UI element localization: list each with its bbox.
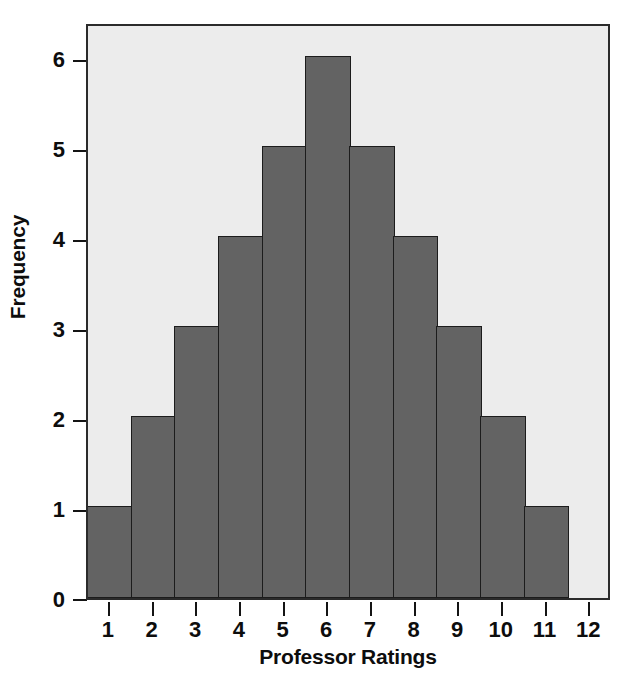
x-tick-mark [588,602,590,616]
y-tick-label: 3 [31,319,65,341]
y-tick-mark [73,510,86,512]
histogram-bar [218,236,264,598]
y-tick-label: 5 [31,139,65,161]
histogram-bar [393,236,439,598]
histogram-bar [87,506,133,598]
histogram-bar [524,506,570,598]
x-tick-mark [108,602,110,616]
x-tick-mark [283,602,285,616]
x-tick-label: 12 [566,618,610,642]
y-tick-mark [73,150,86,152]
histogram-bar [305,56,351,598]
histogram-chart: Frequency Professor Ratings 0123456 1234… [0,0,634,683]
histogram-bar [131,416,177,598]
x-tick-mark [457,602,459,616]
y-tick-label: 4 [31,229,65,251]
y-tick-label: 6 [31,49,65,71]
x-tick-label: 5 [261,618,305,642]
y-tick-label: 0 [31,589,65,611]
y-tick-mark [73,60,86,62]
x-tick-label: 9 [435,618,479,642]
x-tick-label: 2 [130,618,174,642]
x-tick-label: 3 [173,618,217,642]
x-tick-mark [195,602,197,616]
x-tick-mark [545,602,547,616]
x-tick-label: 10 [479,618,523,642]
x-axis-title: Professor Ratings [86,645,610,669]
x-tick-mark [501,602,503,616]
y-tick-label: 2 [31,409,65,431]
x-tick-label: 7 [348,618,392,642]
histogram-bar [436,326,482,598]
y-tick-label: 1 [31,499,65,521]
y-tick-mark [73,420,86,422]
x-tick-mark [370,602,372,616]
y-tick-mark [73,240,86,242]
x-tick-label: 1 [86,618,130,642]
histogram-bar [262,146,308,598]
axis-baseline-stub [73,599,87,601]
plot-area [86,24,610,600]
histogram-bar [480,416,526,598]
x-tick-label: 4 [217,618,261,642]
x-tick-label: 11 [523,618,567,642]
x-tick-label: 6 [304,618,348,642]
y-axis-title: Frequency [6,187,30,347]
x-tick-mark [239,602,241,616]
y-tick-mark [73,330,86,332]
x-tick-mark [326,602,328,616]
histogram-bar [349,146,395,598]
x-tick-mark [414,602,416,616]
x-tick-mark [152,602,154,616]
x-tick-label: 8 [392,618,436,642]
histogram-bar [174,326,220,598]
